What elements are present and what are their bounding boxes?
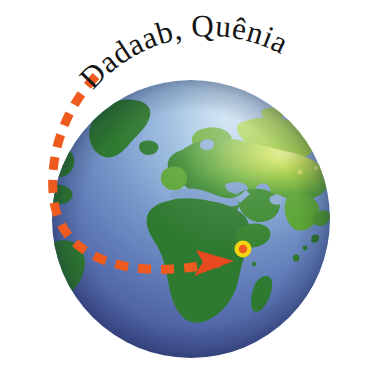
sphere-limb-shade	[52, 80, 330, 358]
marker-center-dot	[239, 245, 247, 253]
earth-globe	[48, 80, 330, 358]
location-marker[interactable]	[235, 241, 252, 258]
landmass-group	[48, 80, 330, 358]
arctic-islands-2	[294, 107, 313, 118]
globe-illustration: Dadaab, Quênia	[0, 0, 367, 386]
